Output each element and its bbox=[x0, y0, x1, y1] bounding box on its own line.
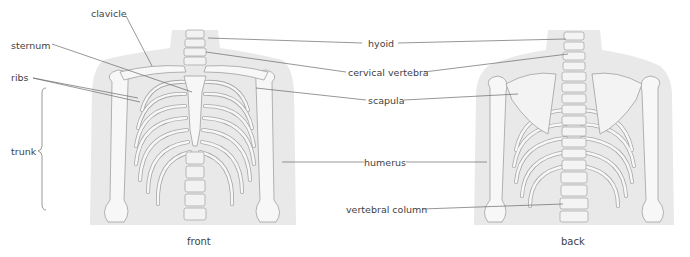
front-lumbar-spine bbox=[184, 152, 206, 220]
back-view bbox=[474, 30, 674, 225]
label-cervical-vertebra: cervical vertebra bbox=[348, 67, 429, 78]
label-scapula: scapula bbox=[368, 95, 405, 106]
label-sternum: sternum bbox=[11, 40, 51, 51]
label-trunk: trunk bbox=[11, 146, 36, 157]
label-ribs: ribs bbox=[11, 72, 29, 83]
label-humerus: humerus bbox=[364, 157, 406, 168]
label-clavicle: clavicle bbox=[91, 8, 127, 19]
label-vertebral-column: vertebral column bbox=[346, 204, 427, 215]
skeleton-diagram bbox=[0, 0, 690, 257]
trunk-brace bbox=[38, 88, 46, 210]
caption-back: back bbox=[561, 236, 585, 247]
label-hyoid: hyoid bbox=[368, 38, 394, 49]
caption-front: front bbox=[187, 236, 211, 247]
front-view bbox=[90, 30, 296, 225]
leader-hyoid-front bbox=[208, 38, 362, 43]
leader-hyoid-back bbox=[398, 39, 566, 43]
